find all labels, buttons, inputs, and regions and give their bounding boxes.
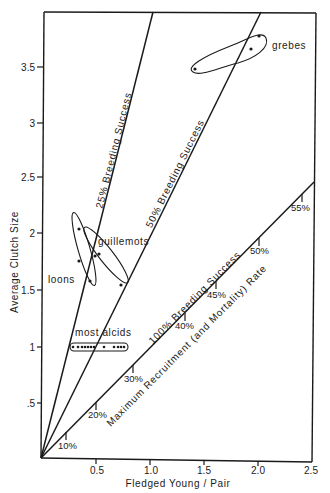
- loons-label: loons: [48, 274, 75, 285]
- guillemots-label: guillemots: [98, 236, 149, 247]
- pct-label: 50%: [250, 245, 270, 256]
- group-most-alcids: most alcids: [70, 327, 132, 351]
- pct-label: 20%: [88, 409, 108, 420]
- recruitment-label: Maximum Recruitment (and Mortality) Rate: [104, 263, 268, 429]
- pct-label: 30%: [124, 373, 144, 384]
- most-alcids-label: most alcids: [75, 327, 132, 338]
- breeding-success-lines: [41, 12, 314, 458]
- y-tick-label: 2: [29, 228, 35, 239]
- x-tick-label: 1.5: [197, 465, 211, 476]
- group-grebes: grebes: [191, 34, 306, 73]
- x-axis-title: Fledged Young / Pair: [126, 478, 231, 489]
- y-axis-tick-labels: .5 1 1.5 2 2.5 3 3.5: [21, 62, 35, 409]
- group-guillemots: guillemots: [79, 223, 149, 287]
- y-tick-label: 3.5: [21, 62, 35, 73]
- x-tick-label: 0.5: [90, 465, 104, 476]
- line-50-label: 50% Breeding Success: [143, 117, 206, 229]
- y-tick-label: 3: [29, 118, 35, 129]
- y-tick-label: 2.5: [21, 172, 35, 183]
- line-25-label: 25% Breeding Success: [94, 91, 134, 209]
- x-tick-label: 2.5: [304, 465, 318, 476]
- pct-label: 10%: [58, 440, 78, 451]
- pct-label: 45%: [207, 289, 227, 300]
- y-tick-label: .5: [27, 398, 36, 409]
- pct-label: 55%: [291, 202, 311, 213]
- y-axis-title: Average Clutch Size: [9, 211, 20, 313]
- x-tick-label: 1.0: [144, 465, 158, 476]
- clutch-size-chart: .5 1 1.5 2 2.5 3 3.5 0.5 1.0 1.5 2.0 2.5…: [0, 0, 330, 493]
- plot-frame: [41, 12, 316, 462]
- y-tick-label: 1.5: [21, 285, 35, 296]
- grebes-label: grebes: [272, 40, 306, 51]
- x-tick-label: 2.0: [251, 465, 265, 476]
- y-tick-label: 1: [29, 342, 35, 353]
- pct-label: 40%: [175, 320, 195, 331]
- x-axis-tick-labels: 0.5 1.0 1.5 2.0 2.5: [90, 465, 318, 476]
